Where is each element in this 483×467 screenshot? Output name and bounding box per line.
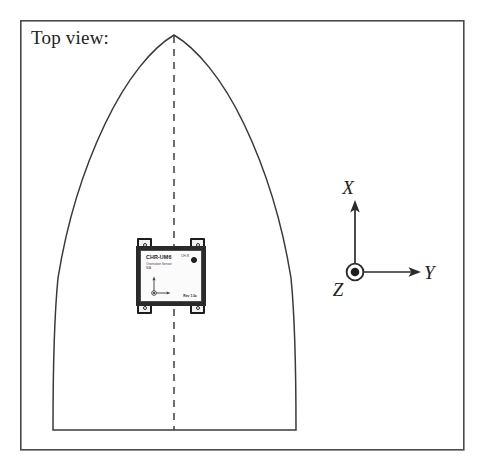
top-view-figure: X Y Z Top view: CHR-UM6 Orientation Sens…: [0, 0, 483, 467]
page-title: Top view:: [31, 27, 109, 49]
sensor-brand-label: CHR-UM6: [146, 254, 172, 260]
sensor-body: CHR-UM6 Orientation Sensor N/A CH-R Rev …: [136, 246, 206, 306]
sensor-axis-z-dot: [153, 292, 155, 294]
sensor-corner-label: CH-R: [181, 254, 189, 258]
diagram-canvas: X Y Z: [0, 0, 483, 467]
sensor-sub-label-line2: N/A: [146, 266, 172, 270]
z-axis-label: Z: [333, 279, 344, 300]
sensor-connector-icon: [191, 257, 197, 263]
sensor-axis-marking: [148, 275, 174, 297]
z-axis-dot: [351, 268, 360, 277]
sensor-model-label: Rev 1.0c: [183, 294, 197, 298]
sensor-face: CHR-UM6 Orientation Sensor N/A CH-R Rev …: [140, 250, 202, 302]
sensor-sub-label: Orientation Sensor N/A: [146, 262, 172, 270]
x-axis-label: X: [341, 177, 355, 198]
imu-sensor: CHR-UM6 Orientation Sensor N/A CH-R Rev …: [136, 238, 206, 314]
